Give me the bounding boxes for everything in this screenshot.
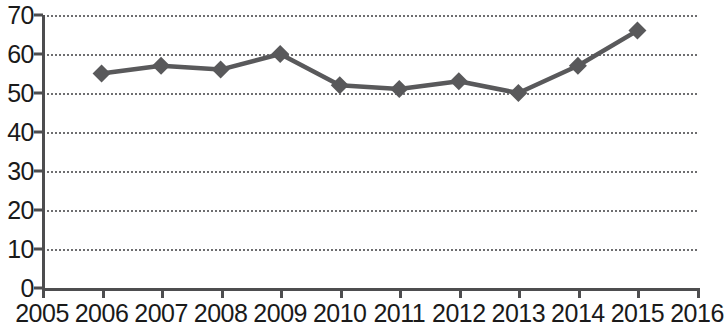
x-tick-label: 2011 (373, 299, 425, 328)
y-tick-mark (34, 14, 43, 17)
y-tick-label: 40 (7, 118, 34, 147)
y-tick-mark (34, 170, 43, 173)
y-tick-mark (34, 248, 43, 251)
x-tick-label: 2006 (75, 299, 129, 328)
y-axis-labels: 010203040506070 (0, 0, 34, 331)
x-tick-label: 2008 (194, 299, 248, 328)
x-tick-mark (578, 288, 581, 298)
y-tick-mark (34, 131, 43, 134)
x-tick-mark (161, 288, 164, 298)
gridline (42, 54, 697, 56)
gridline (42, 210, 697, 212)
x-tick-mark (637, 288, 640, 298)
y-tick-mark (34, 53, 43, 56)
gridline (42, 249, 697, 251)
x-tick-mark (340, 288, 343, 298)
plot-area (42, 0, 697, 331)
y-tick-label: 50 (7, 79, 34, 108)
x-tick-label: 2015 (611, 299, 665, 328)
x-tick-label: 2013 (492, 299, 546, 328)
x-tick-mark (399, 288, 402, 298)
gridline (42, 15, 697, 17)
x-tick-mark (221, 288, 224, 298)
y-tick-label: 10 (7, 235, 34, 264)
x-axis-line (42, 288, 697, 291)
x-tick-label: 2009 (253, 299, 307, 328)
gridline (42, 132, 697, 134)
x-tick-label: 2012 (432, 299, 486, 328)
gridline (42, 93, 697, 95)
x-tick-mark (42, 288, 45, 298)
x-tick-mark (518, 288, 521, 298)
y-tick-mark (34, 209, 43, 212)
x-tick-label: 2016 (670, 299, 724, 328)
x-tick-label: 2014 (551, 299, 605, 328)
x-tick-mark (102, 288, 105, 298)
x-tick-mark (459, 288, 462, 298)
x-tick-label: 2010 (313, 299, 367, 328)
x-tick-label: 2007 (134, 299, 188, 328)
y-tick-label: 20 (7, 196, 34, 225)
y-tick-label: 60 (7, 40, 34, 69)
x-tick-mark (280, 288, 283, 298)
y-tick-label: 70 (7, 1, 34, 30)
y-tick-label: 30 (7, 157, 34, 186)
x-tick-mark (697, 288, 700, 298)
y-tick-mark (34, 92, 43, 95)
x-tick-label: 2005 (15, 299, 69, 328)
gridline (42, 171, 697, 173)
